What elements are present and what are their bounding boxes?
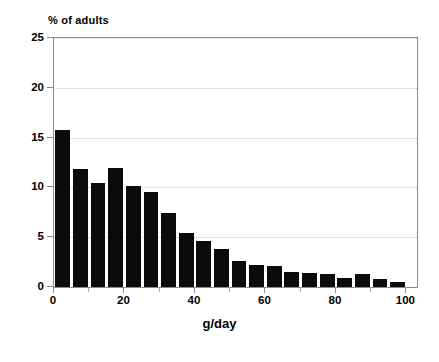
x-tick-mark: [123, 288, 124, 293]
x-tick-label: 40: [188, 294, 201, 306]
y-tick-label: 20: [31, 81, 44, 93]
bar: [144, 192, 159, 287]
y-tick-label: 15: [31, 131, 44, 143]
bar: [284, 272, 299, 287]
bar-series: [54, 38, 417, 287]
y-tick-mark: [47, 87, 53, 88]
x-axis-label: g/day: [0, 316, 439, 331]
bar: [196, 241, 211, 287]
y-tick-label: 25: [31, 31, 44, 43]
plot-area: [53, 37, 418, 288]
x-minor-tick-mark: [370, 288, 371, 292]
bar: [91, 183, 106, 287]
bar: [302, 273, 317, 287]
bar: [249, 265, 264, 287]
y-tick-mark: [47, 186, 53, 187]
x-tick-label: 80: [329, 294, 342, 306]
y-tick-label: 0: [38, 280, 44, 292]
chart-figure: % of adults 0510152025 020406080100 g/da…: [0, 0, 439, 362]
y-tick-label: 10: [31, 180, 44, 192]
x-axis-tick-labels: 020406080100: [53, 294, 418, 312]
x-tick-label: 60: [258, 294, 271, 306]
x-tick-mark: [194, 288, 195, 293]
bar: [73, 169, 88, 287]
x-tick-mark: [53, 288, 54, 293]
x-minor-tick-mark: [229, 288, 230, 292]
bar: [126, 186, 141, 287]
x-minor-tick-mark: [300, 288, 301, 292]
y-tick-mark: [47, 137, 53, 138]
x-minor-tick-mark: [159, 288, 160, 292]
x-tick-mark: [335, 288, 336, 293]
x-tick-label: 100: [396, 294, 415, 306]
bar: [179, 233, 194, 287]
bar: [337, 278, 352, 287]
bar: [232, 261, 247, 287]
x-tick-label: 20: [117, 294, 130, 306]
x-tick-label: 0: [50, 294, 56, 306]
y-tick-label: 5: [38, 230, 44, 242]
bar: [55, 130, 70, 287]
bar: [108, 168, 123, 287]
bar: [320, 274, 335, 287]
bar: [214, 249, 229, 287]
y-tick-mark: [47, 236, 53, 237]
x-minor-tick-mark: [88, 288, 89, 292]
bar: [390, 282, 405, 287]
y-tick-mark: [47, 286, 53, 287]
bar: [161, 213, 176, 287]
y-axis-tick-labels: 0510152025: [14, 37, 44, 288]
y-tick-mark: [47, 37, 53, 38]
x-tick-mark: [405, 288, 406, 293]
x-tick-mark: [264, 288, 265, 293]
bar: [267, 266, 282, 287]
bar: [355, 274, 370, 287]
y-axis-label: % of adults: [48, 14, 109, 26]
bar: [373, 279, 388, 287]
